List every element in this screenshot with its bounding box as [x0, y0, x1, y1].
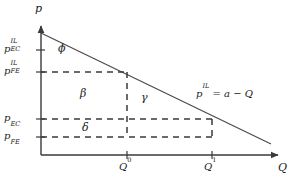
- region-label-phi: ϕ: [58, 43, 66, 54]
- demand-eqn-q: Q: [245, 88, 253, 99]
- x-tick-label-q0-base: Q: [119, 161, 127, 172]
- x-tick-label-q0-sup: 0: [127, 156, 131, 164]
- x-tick-label-q1: Q1: [204, 162, 216, 172]
- y-tick-label-p-fe-sub: FE: [10, 138, 19, 146]
- x-tick-label-q1-base: Q: [204, 161, 212, 172]
- region-label-beta: β: [80, 88, 86, 99]
- y-tick-label-p-fe: pFE: [4, 131, 20, 141]
- demand-curve-equation: pIL = a − Q: [196, 89, 253, 99]
- y-tick-label-p-ec-il: pILEC: [4, 44, 10, 54]
- y-axis-label: p: [35, 3, 42, 14]
- demand-eqn-lhs-sup: IL: [202, 82, 209, 90]
- y-tick-label-p-fe-il: pILFE: [4, 66, 10, 76]
- y-tick-label-p-ec-sub: EC: [10, 120, 20, 128]
- x-tick-label-q1-sup: 1: [212, 156, 216, 164]
- demand-eqn-minus: −: [233, 88, 241, 99]
- demand-eqn-equals: =: [212, 88, 220, 99]
- region-label-delta: δ: [82, 122, 89, 133]
- x-tick-label-q0: Q0: [119, 162, 131, 172]
- x-axis-label: Q: [278, 162, 287, 173]
- region-label-gamma: γ: [141, 92, 148, 103]
- y-tick-label-p-ec: pEC: [4, 113, 20, 123]
- economics-welfare-diagram: p Q pILEC pILFE pEC pFE Q0 Q1 ϕ β γ δ pI…: [0, 0, 297, 190]
